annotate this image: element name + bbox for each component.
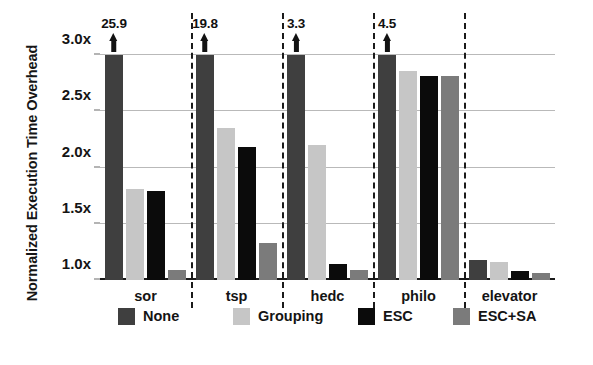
bar xyxy=(378,55,396,280)
y-tick-label: 1.0x xyxy=(62,255,91,272)
legend-swatch-icon xyxy=(118,308,135,325)
bar xyxy=(259,243,277,280)
y-tick-mark xyxy=(94,110,100,111)
bar xyxy=(329,264,347,280)
x-category-label: sor xyxy=(134,288,157,304)
legend-label: ESC xyxy=(383,308,413,324)
bar xyxy=(168,270,186,280)
y-tick-mark xyxy=(94,166,100,167)
up-arrow-icon xyxy=(382,33,391,52)
bar xyxy=(420,76,438,280)
gridline xyxy=(100,54,555,55)
up-arrow-icon xyxy=(109,33,118,52)
x-category-label: elevator xyxy=(482,288,538,304)
up-arrow-icon xyxy=(200,33,209,52)
x-category-label: philo xyxy=(401,288,436,304)
chart-figure: Normalized Execution Time Overhead 1.0x1… xyxy=(0,0,593,365)
group-separator xyxy=(373,13,375,308)
legend-item[interactable]: None xyxy=(118,308,179,325)
y-tick-label: 3.0x xyxy=(62,30,91,47)
y-tick-mark xyxy=(94,279,100,280)
y-tick-mark xyxy=(94,54,100,55)
bar xyxy=(105,55,123,280)
clipped-value-annotation: 25.9 xyxy=(101,17,126,52)
y-tick-mark xyxy=(94,222,100,223)
bar xyxy=(469,260,487,280)
clipped-value-annotation: 3.3 xyxy=(287,17,305,52)
clipped-value-annotation: 19.8 xyxy=(192,17,217,52)
bar xyxy=(147,191,165,280)
y-tick-label: 1.5x xyxy=(62,198,91,215)
legend-label: None xyxy=(143,308,179,324)
clipped-value-label: 4.5 xyxy=(378,17,396,31)
legend-swatch-icon xyxy=(233,308,250,325)
legend-item[interactable]: ESC xyxy=(358,308,413,325)
up-arrow-icon xyxy=(291,33,300,52)
legend-label: ESC+SA xyxy=(478,308,536,324)
gridline xyxy=(100,110,555,111)
clipped-value-label: 3.3 xyxy=(287,17,305,31)
legend-swatch-icon xyxy=(453,308,470,325)
bar xyxy=(511,271,529,280)
clipped-value-annotation: 4.5 xyxy=(378,17,396,52)
bar xyxy=(196,55,214,280)
x-category-label: tsp xyxy=(226,288,248,304)
bar xyxy=(532,273,550,280)
bar xyxy=(441,76,459,280)
legend-item[interactable]: ESC+SA xyxy=(453,308,536,325)
group-separator xyxy=(191,13,193,308)
y-tick-label: 2.5x xyxy=(62,86,91,103)
bar xyxy=(308,145,326,280)
gridline xyxy=(100,167,555,168)
x-category-label: hedc xyxy=(311,288,345,304)
bar xyxy=(490,262,508,280)
bar xyxy=(238,147,256,280)
y-tick-label: 2.0x xyxy=(62,142,91,159)
group-separator xyxy=(282,13,284,308)
clipped-value-label: 19.8 xyxy=(192,17,217,31)
legend-item[interactable]: Grouping xyxy=(233,308,323,325)
legend-label: Grouping xyxy=(258,308,323,324)
bar xyxy=(350,270,368,280)
bar xyxy=(217,128,235,280)
clipped-value-label: 25.9 xyxy=(101,17,126,31)
gridline xyxy=(100,223,555,224)
plot-area: 1.0x1.5x2.0x2.5x3.0x 25.919.83.34.5 sort… xyxy=(100,55,555,280)
bar xyxy=(287,55,305,280)
legend-swatch-icon xyxy=(358,308,375,325)
bar xyxy=(399,71,417,280)
group-separator xyxy=(464,13,466,308)
y-axis-title: Normalized Execution Time Overhead xyxy=(24,28,40,318)
bar xyxy=(126,189,144,280)
